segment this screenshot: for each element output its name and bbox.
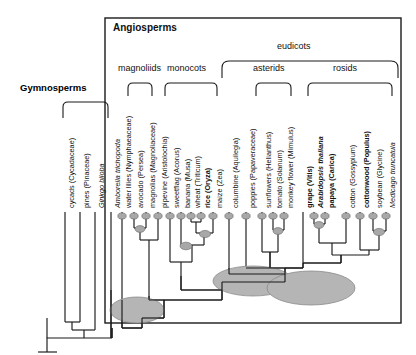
tip-label-sweetflag: sweetflag (Acorus)	[173, 148, 180, 208]
dup-cottonwood	[356, 213, 364, 219]
bracket-gymnosperms	[63, 102, 108, 118]
dup-sunflowers	[258, 213, 266, 219]
tip-label-columbine: columbine (Aquilegia)	[232, 138, 239, 208]
tip-label-grape: grape (Vitis)	[306, 166, 313, 208]
tip-label-arabidopsis: Arabidopsis thaliana	[317, 136, 324, 208]
dup-waterlilies	[118, 213, 126, 219]
dup-monkeyflower	[280, 213, 288, 219]
label-gymnosperms: Gymnosperms	[20, 82, 87, 93]
dup-node-grasses	[199, 230, 210, 237]
dup-sweetflag	[166, 213, 174, 219]
dup-columbine	[225, 213, 233, 219]
tip-label-banana: banana (Musa)	[184, 159, 191, 208]
dup-rice	[197, 213, 205, 219]
dup-pipevine	[154, 213, 162, 219]
dup-node-commelinid	[180, 242, 192, 250]
dup-tomato	[269, 213, 277, 219]
tip-label-ginkgo: Ginkgo biloba	[98, 163, 105, 208]
tip-label-avocado: avocado (Persea)	[137, 150, 144, 208]
small-duplication-events	[118, 213, 390, 250]
tip-label-cotton: cotton (Gossypium)	[349, 145, 356, 208]
branch-root	[47, 338, 112, 352]
dup-soybean	[369, 213, 377, 219]
label-rosids: rosids	[333, 63, 357, 73]
bracket-monocots	[165, 83, 217, 96]
label-magnoliids: magnoliids	[118, 63, 161, 73]
duplication-ellipse-rosid	[267, 271, 355, 305]
tip-label-papaya: papaya (Carica)	[328, 154, 335, 208]
bracket-rosids	[308, 83, 392, 96]
duplication-ellipse-angiosperm	[110, 297, 164, 323]
bracket-magnoliids	[128, 83, 152, 96]
bracket-eudicots	[222, 61, 398, 78]
tip-label-waterlilies: water lilies (Nymphaeaceae)	[125, 116, 132, 208]
tip-label-magnolias: magnolias (Magnoliaceae)	[149, 122, 156, 208]
tip-label-pipevine: pipevine (Aristolochia)	[161, 136, 168, 208]
dup-magnolias	[142, 213, 150, 219]
tip-label-pines: pines (Pinaceae)	[83, 153, 90, 208]
dup-wheat	[187, 213, 195, 219]
dup-node-legumes	[373, 228, 384, 235]
label-angiosperms: Angiosperms	[113, 22, 177, 33]
tip-label-medicago: Medicago truncatula	[389, 142, 396, 208]
label-monocots: monocots	[167, 63, 206, 73]
dup-node-magnoliid	[135, 226, 145, 233]
dup-medicago	[382, 213, 390, 219]
dup-node-asterid	[273, 228, 283, 235]
tip-label-cottonwood: cottonwood (Populus)	[363, 131, 370, 208]
dup-papaya	[321, 213, 329, 219]
tip-label-soybean: soybean (Glycine)	[376, 149, 383, 208]
tip-label-sunflowers: sunflowers (Helianthus)	[265, 132, 272, 208]
dup-banana	[177, 213, 185, 219]
bracket-asterids	[256, 83, 291, 96]
phylogeny-figure: Gymnosperms Angiosperms eudicots magnoli…	[0, 0, 416, 355]
dup-cotton	[342, 213, 350, 219]
dup-arabidopsis	[310, 213, 318, 219]
tip-label-poppies: poppies (Papaveraceae)	[249, 128, 256, 208]
tip-label-wheat: wheat (Triticum)	[194, 156, 201, 208]
dup-poppies	[242, 213, 250, 219]
dup-maize	[209, 213, 217, 219]
tip-label-monkeyflower: monkey flower (Mimulus)	[287, 127, 294, 208]
tip-label-maize: maize (Zea)	[216, 169, 223, 208]
tip-label-amborella: Amborella trichopoda	[114, 139, 121, 208]
tip-label-cycads: cycads (Cycadaceae)	[68, 138, 75, 208]
label-asterids: asterids	[253, 63, 285, 73]
tip-label-tomato: tomato (Solanum)	[276, 150, 283, 208]
dup-avocado	[130, 213, 138, 219]
tip-label-rice: rice (Oryza)	[204, 168, 211, 208]
label-eudicots: eudicots	[277, 41, 311, 51]
dup-node-brassicales	[314, 222, 324, 229]
